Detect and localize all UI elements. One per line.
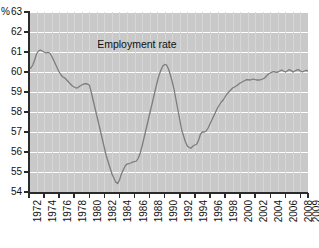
x-tick xyxy=(254,193,256,198)
x-tick xyxy=(270,193,272,198)
x-tick-label: 2004 xyxy=(274,200,284,222)
x-tick xyxy=(300,193,302,198)
x-tick xyxy=(209,193,211,198)
x-tick-label: 1988 xyxy=(154,200,164,222)
y-tick-label: 63 xyxy=(11,7,22,17)
x-tick xyxy=(307,193,309,198)
y-tick-label: 55 xyxy=(11,167,22,177)
y-tick xyxy=(24,171,29,173)
x-tick-label: 2006 xyxy=(289,200,299,222)
y-tick-label: 57 xyxy=(11,127,22,137)
x-tick-label: 1978 xyxy=(78,200,88,222)
y-tick xyxy=(24,51,29,53)
y-tick-label: 59 xyxy=(11,87,22,97)
employment-rate-chart: Employment rate 54555657585960616263 % 1… xyxy=(0,0,319,248)
x-tick xyxy=(28,193,30,198)
x-tick-label: 1980 xyxy=(93,200,103,222)
x-tick xyxy=(73,193,75,198)
y-tick xyxy=(24,151,29,153)
x-tick xyxy=(149,193,151,198)
x-tick xyxy=(119,193,121,198)
x-tick xyxy=(194,193,196,198)
x-tick-label: 1976 xyxy=(63,200,73,222)
x-tick-label: 1994 xyxy=(199,200,209,222)
y-tick xyxy=(24,11,29,13)
y-axis-labels: 54555657585960616263 xyxy=(0,0,24,248)
y-tick-label: 61 xyxy=(11,47,22,57)
y-tick xyxy=(24,31,29,33)
x-tick-label: 1972 xyxy=(33,200,43,222)
x-tick-label: 2000 xyxy=(244,200,254,222)
x-tick xyxy=(104,193,106,198)
x-tick xyxy=(134,193,136,198)
y-tick-label: 60 xyxy=(11,67,22,77)
y-tick-label: 62 xyxy=(11,27,22,37)
x-tick xyxy=(58,193,60,198)
y-tick-label: 58 xyxy=(11,107,22,117)
x-tick xyxy=(164,193,166,198)
x-tick-label: 1998 xyxy=(229,200,239,222)
plot-area: Employment rate xyxy=(29,12,308,192)
x-tick-label: 1990 xyxy=(169,200,179,222)
x-tick xyxy=(179,193,181,198)
y-tick-label: 56 xyxy=(11,147,22,157)
x-axis-line xyxy=(28,192,308,194)
x-tick-label: 1982 xyxy=(108,200,118,222)
x-tick-label: 1984 xyxy=(123,200,133,222)
x-tick-label: 2002 xyxy=(259,200,269,222)
y-tick xyxy=(24,111,29,113)
x-tick-label: 1996 xyxy=(214,200,224,222)
x-tick xyxy=(89,193,91,198)
y-axis-unit-label: % xyxy=(1,7,10,17)
x-tick-label: 1986 xyxy=(139,200,149,222)
y-axis-line xyxy=(28,11,30,193)
x-tick-label: 1974 xyxy=(48,200,58,222)
x-tick-label: 1992 xyxy=(184,200,194,222)
x-tick xyxy=(224,193,226,198)
annotation-employment-rate: Employment rate xyxy=(97,39,176,50)
series-line xyxy=(29,50,308,184)
x-tick xyxy=(43,193,45,198)
x-tick xyxy=(239,193,241,198)
y-tick xyxy=(24,71,29,73)
y-tick xyxy=(24,91,29,93)
y-tick-label: 54 xyxy=(11,187,22,197)
x-tick-label: 2009 xyxy=(312,200,319,222)
y-tick xyxy=(24,131,29,133)
x-tick xyxy=(285,193,287,198)
